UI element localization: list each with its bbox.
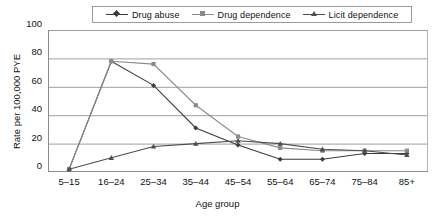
- square-marker-icon: [200, 11, 205, 16]
- legend-marker-triangle-icon: [303, 10, 325, 19]
- plot-area: [48, 30, 428, 172]
- legend-item-drug-dependence: Drug dependence: [192, 10, 291, 20]
- y-tick-label: 80: [0, 46, 42, 57]
- data-point: [236, 143, 241, 148]
- x-axis-title: Age group: [0, 198, 435, 209]
- chart-figure: Drug abuse Drug dependence Licit depende…: [0, 0, 435, 217]
- y-axis-title: Rate per 100,000 PYE: [11, 42, 22, 162]
- data-point: [194, 103, 198, 107]
- legend-label-drug-dependence: Drug dependence: [218, 10, 291, 20]
- data-point: [278, 157, 283, 162]
- plot-svg: [48, 30, 428, 172]
- data-point: [405, 149, 409, 153]
- y-tick-label: 100: [0, 18, 42, 29]
- diamond-marker-icon: [113, 10, 120, 17]
- data-point: [151, 62, 155, 66]
- triangle-marker-icon: [311, 11, 317, 16]
- data-point: [278, 146, 282, 150]
- data-point: [236, 134, 240, 138]
- chart-legend: Drug abuse Drug dependence Licit depende…: [92, 6, 412, 23]
- x-tick-label: 85+: [377, 176, 435, 187]
- legend-item-licit-dependence: Licit dependence: [303, 10, 399, 20]
- y-tick-label: 40: [0, 103, 42, 114]
- y-tick-label: 60: [0, 75, 42, 86]
- legend-marker-square-icon: [192, 10, 214, 19]
- legend-label-drug-abuse: Drug abuse: [132, 10, 180, 20]
- legend-item-drug-abuse: Drug abuse: [106, 10, 180, 20]
- data-point: [320, 157, 325, 162]
- legend-marker-diamond-icon: [106, 10, 128, 19]
- legend-label-licit-dependence: Licit dependence: [329, 10, 399, 20]
- y-tick-label: 0: [0, 160, 42, 171]
- y-tick-label: 20: [0, 132, 42, 143]
- data-point: [109, 59, 113, 63]
